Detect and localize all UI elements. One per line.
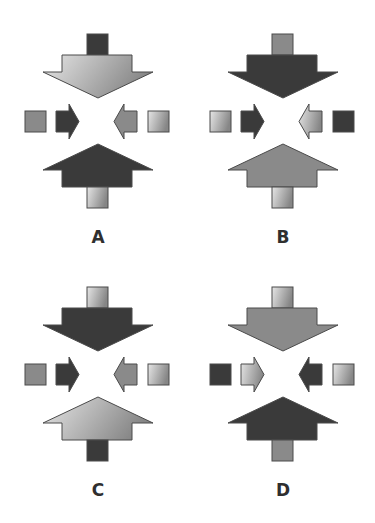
panel-c: C — [0, 253, 185, 506]
top-square — [87, 287, 108, 308]
diagram-svg — [0, 0, 185, 253]
left-arrow-icon — [114, 104, 137, 139]
down-arrow-icon — [228, 55, 338, 98]
right-square — [148, 111, 169, 132]
top-square — [87, 34, 108, 55]
left-arrow-icon — [299, 357, 322, 392]
up-arrow-icon — [43, 144, 153, 187]
panel-label: A — [68, 227, 128, 247]
bottom-square — [272, 187, 293, 208]
right-arrow-icon — [56, 104, 79, 139]
diagram-svg — [185, 0, 370, 253]
down-arrow-icon — [43, 55, 153, 98]
up-arrow-icon — [43, 397, 153, 440]
panel-label: B — [253, 227, 313, 247]
right-square — [333, 364, 354, 385]
panel-a: A — [0, 0, 185, 253]
bottom-square — [87, 440, 108, 461]
panel-label: C — [68, 480, 128, 500]
right-arrow-icon — [56, 357, 79, 392]
right-arrow-icon — [241, 104, 264, 139]
right-square — [148, 364, 169, 385]
left-square — [210, 364, 231, 385]
bottom-square — [272, 440, 293, 461]
left-square — [25, 111, 46, 132]
up-arrow-icon — [228, 144, 338, 187]
panel-label: D — [253, 480, 313, 500]
down-arrow-icon — [43, 308, 153, 351]
panel-b: B — [185, 0, 370, 253]
top-square — [272, 34, 293, 55]
down-arrow-icon — [228, 308, 338, 351]
diagram-svg — [0, 253, 185, 506]
left-square — [210, 111, 231, 132]
right-square — [333, 111, 354, 132]
left-square — [25, 364, 46, 385]
diagram-svg — [185, 253, 370, 506]
top-square — [272, 287, 293, 308]
left-arrow-icon — [299, 104, 322, 139]
left-arrow-icon — [114, 357, 137, 392]
panel-d: D — [185, 253, 370, 506]
right-arrow-icon — [241, 357, 264, 392]
bottom-square — [87, 187, 108, 208]
up-arrow-icon — [228, 397, 338, 440]
